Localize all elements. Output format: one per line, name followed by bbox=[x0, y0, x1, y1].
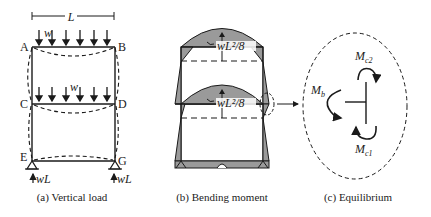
panel-c-equilibrium: Mb Mc2 Mc1 (c) Equilibrium bbox=[303, 33, 407, 204]
moment-b-label: Mb bbox=[310, 83, 325, 99]
reaction-label-left: wL bbox=[36, 172, 51, 186]
node-label-d: D bbox=[118, 97, 127, 111]
reaction-label-right: wL bbox=[117, 172, 132, 186]
node-label-b: B bbox=[118, 40, 126, 54]
caption-b: (b) Bending moment bbox=[176, 191, 268, 204]
caption-a: (a) Vertical load bbox=[37, 191, 108, 204]
load-label-top: w bbox=[44, 26, 52, 40]
node-label-c: C bbox=[20, 97, 28, 111]
node-label-a: A bbox=[20, 40, 29, 54]
moment-c2-label: Mc2 bbox=[354, 49, 373, 65]
panel-b-bending-moment: wL²/8 wL²/8 (b) Bending moment bbox=[175, 29, 274, 205]
panel-a-vertical-load: L w w bbox=[20, 9, 132, 204]
moment-c1-label: Mc1 bbox=[354, 142, 373, 158]
moment-b-arrow-icon bbox=[327, 90, 341, 118]
frame-diagram: L w w bbox=[0, 0, 431, 217]
moment-label-mid: wL²/8 bbox=[217, 96, 245, 110]
frame-members bbox=[32, 47, 115, 161]
caption-c: (c) Equilibrium bbox=[324, 191, 393, 204]
moment-label-top: wL²/8 bbox=[217, 39, 245, 53]
node-label-g: G bbox=[118, 154, 127, 168]
moment-c2-arrow-icon bbox=[358, 68, 376, 82]
load-label-mid: w bbox=[70, 80, 78, 94]
pin-support-left-icon bbox=[27, 161, 37, 169]
moment-c1-arrow-icon bbox=[356, 126, 376, 139]
node-label-e: E bbox=[20, 150, 27, 164]
span-label: L bbox=[67, 10, 75, 24]
